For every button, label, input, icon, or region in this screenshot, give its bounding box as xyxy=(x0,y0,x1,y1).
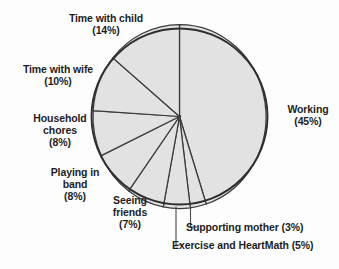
slice-label-supporting-mother: Supporting mother (3%) xyxy=(186,221,338,233)
pie-chart: Time with child (14%) Time with wife (10… xyxy=(0,0,339,269)
slice-label-household-chores: Household chores (8%) xyxy=(14,112,106,149)
slice-label-time-with-child: Time with child (14%) xyxy=(47,12,165,36)
slice-label-time-with-wife: Time with wife (10%) xyxy=(6,63,110,87)
slice-label-working: Working (45%) xyxy=(278,103,338,127)
slice-label-seeing-friends: Seeing friends (7%) xyxy=(94,194,166,231)
slice-label-exercise-and-heartmath: Exercise and HeartMath (5%) xyxy=(172,239,338,251)
